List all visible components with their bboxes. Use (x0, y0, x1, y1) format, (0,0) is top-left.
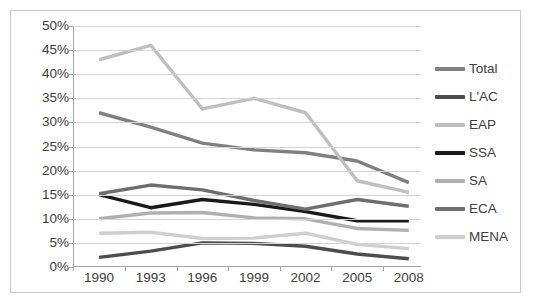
legend-swatch-icon (435, 235, 465, 239)
x-axis-tick-label: 2008 (394, 271, 424, 285)
gridline (73, 243, 421, 244)
series-line-mena (99, 232, 409, 248)
legend-item-label: MENA (469, 230, 508, 244)
legend-item-l-ac[interactable]: L'AC (435, 83, 521, 111)
y-axis-tick (69, 26, 73, 27)
y-axis-tick-label: 10% (21, 212, 69, 226)
y-axis-tick-label: 35% (21, 92, 69, 106)
legend-item-label: L'AC (469, 90, 498, 104)
legend-item-mena[interactable]: MENA (435, 223, 521, 251)
gridline (73, 219, 421, 220)
legend-item-label: EAP (469, 118, 496, 132)
y-axis-tick-label: 20% (21, 164, 69, 178)
legend-item-eap[interactable]: EAP (435, 111, 521, 139)
y-axis-tick (69, 171, 73, 172)
x-axis-tick-label: 1993 (136, 271, 166, 285)
x-axis-tick-label: 1999 (239, 271, 269, 285)
legend-swatch-icon (435, 179, 465, 183)
x-axis-tick-label: 2005 (342, 271, 372, 285)
gridline (73, 98, 421, 99)
legend-swatch-icon (435, 67, 465, 71)
y-axis-tick-label: 40% (21, 67, 69, 81)
x-axis-tick-label: 1990 (84, 271, 114, 285)
legend-swatch-icon (435, 123, 465, 127)
legend-swatch-icon (435, 151, 465, 155)
legend-item-label: SSA (469, 146, 496, 160)
legend-item-label: ECA (469, 202, 497, 216)
y-axis-tick (69, 147, 73, 148)
y-axis-tick (69, 243, 73, 244)
x-axis-tick-label: 2002 (291, 271, 321, 285)
y-axis-tick (69, 50, 73, 51)
legend-item-label: Total (469, 62, 498, 76)
y-axis-tick-label: 0% (21, 260, 69, 274)
y-axis-tick (69, 98, 73, 99)
y-axis-tick (69, 122, 73, 123)
y-axis-tick-label: 45% (21, 43, 69, 57)
plot-area (73, 26, 421, 267)
x-axis-labels: 1990199319961999200220052008 (73, 269, 421, 293)
y-axis-tick-label: 30% (21, 116, 69, 130)
chart-frame: 0%5%10%15%20%25%30%35%40%45%50% 19901993… (10, 10, 521, 293)
gridline (73, 50, 421, 51)
y-axis-labels: 0%5%10%15%20%25%30%35%40%45%50% (15, 26, 69, 267)
gridline (73, 74, 421, 75)
legend-item-ssa[interactable]: SSA (435, 139, 521, 167)
gridline (73, 195, 421, 196)
y-axis-tick (69, 195, 73, 196)
chart-legend: TotalL'ACEAPSSASAECAMENA (435, 55, 521, 251)
y-axis-tick (69, 219, 73, 220)
y-axis-tick (69, 74, 73, 75)
gridline (73, 171, 421, 172)
gridline (73, 122, 421, 123)
y-axis-tick-label: 5% (21, 236, 69, 250)
gridline (73, 26, 421, 27)
y-axis-tick-label: 25% (21, 140, 69, 154)
cropped-title-strip (0, 0, 533, 9)
legend-item-label: SA (469, 174, 487, 188)
legend-swatch-icon (435, 207, 465, 211)
x-axis-tick-label: 1996 (187, 271, 217, 285)
gridline (73, 147, 421, 148)
legend-item-eca[interactable]: ECA (435, 195, 521, 223)
legend-item-total[interactable]: Total (435, 55, 521, 83)
y-axis-tick-label: 15% (21, 188, 69, 202)
y-axis-tick-label: 50% (21, 19, 69, 33)
legend-swatch-icon (435, 95, 465, 99)
legend-item-sa[interactable]: SA (435, 167, 521, 195)
